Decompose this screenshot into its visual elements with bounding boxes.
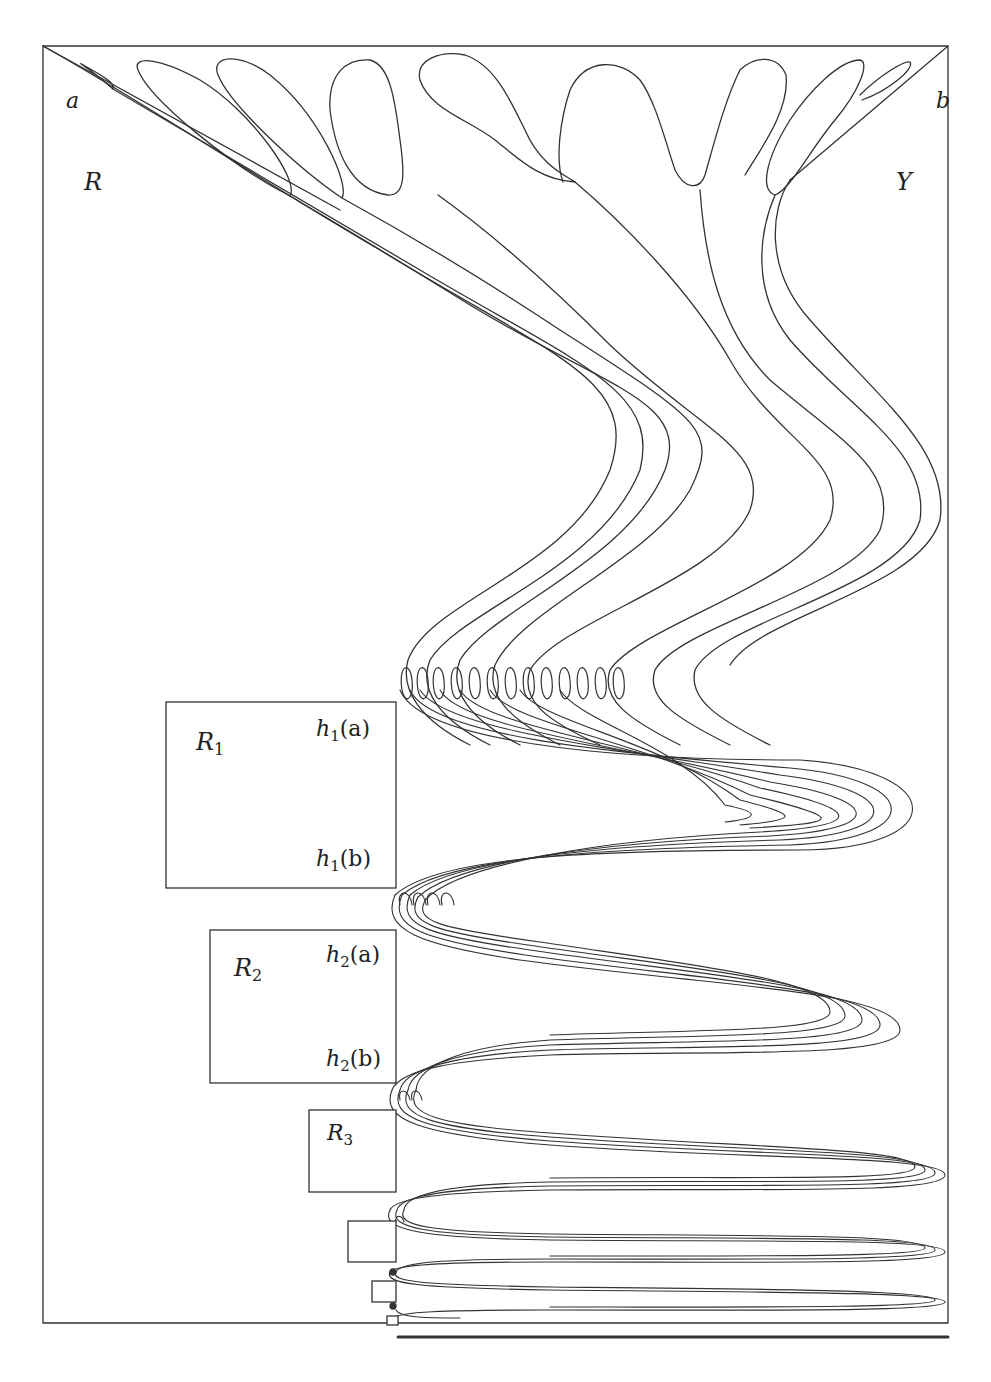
fold-band-1 [395, 690, 913, 899]
right-diagonal [790, 46, 948, 180]
box-r5 [372, 1281, 396, 1302]
box-r4 [348, 1221, 396, 1262]
h2a-label: h2(a) [326, 942, 380, 971]
fold-band-4 [389, 1210, 945, 1272]
top-right-loops [559, 59, 911, 195]
fold-knot-1 [390, 1269, 396, 1275]
corner-label-a: a [66, 88, 79, 113]
box-r6 [387, 1316, 398, 1325]
folding-map-diagram: a b R Y R1 h1(a) h1(b) R2 h2(a) h2(b) R3 [0, 0, 991, 1382]
top-left-loops [81, 54, 575, 198]
fold-band-3 [390, 1090, 945, 1210]
fold-knot-2 [390, 1303, 396, 1309]
h1b-label: h1(b) [316, 846, 371, 875]
region-label-r: R [83, 168, 102, 196]
fold-band-2 [392, 893, 900, 1090]
fold-band-5 [389, 1272, 945, 1318]
h1a-label: h1(a) [316, 716, 370, 745]
region-label-y: Y [896, 168, 914, 196]
box-r3 [309, 1110, 396, 1192]
corner-label-b: b [936, 88, 950, 113]
h2b-label: h2(b) [326, 1046, 381, 1075]
upper-strands [43, 46, 941, 745]
micro-folds-row-1 [401, 668, 624, 699]
